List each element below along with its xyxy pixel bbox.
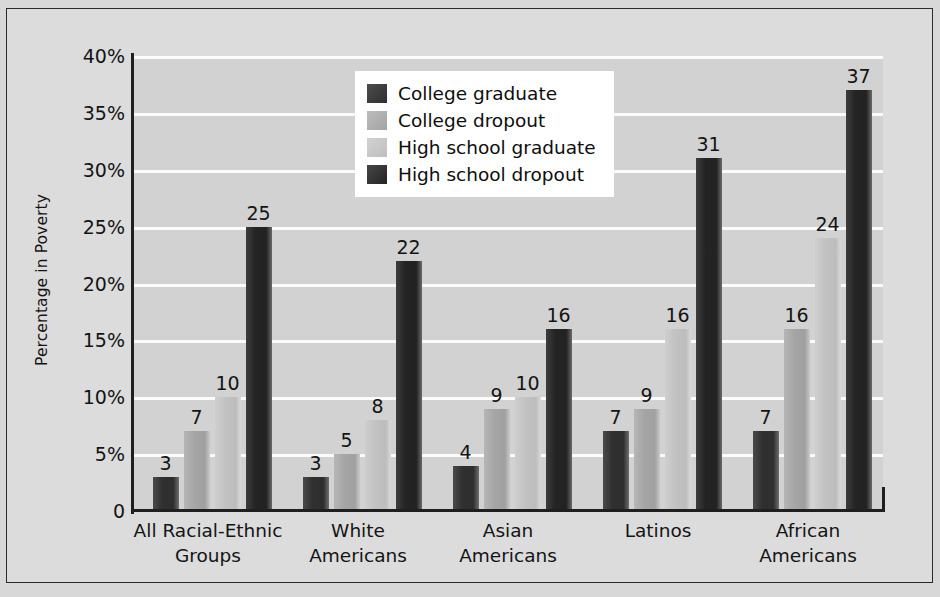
bar[interactable] <box>246 227 272 511</box>
bar-value-label: 31 <box>696 133 720 155</box>
bar-slot: 25 <box>246 56 272 511</box>
y-axis-tick-40: 40% <box>47 45 125 67</box>
x-axis-label-line: Americans <box>733 543 883 568</box>
bar-value-label: 22 <box>396 236 420 258</box>
bar[interactable] <box>815 238 841 511</box>
bar-value-label: 7 <box>609 406 621 428</box>
legend-item-label: College graduate <box>398 83 557 104</box>
bar-slot: 9 <box>634 56 660 511</box>
legend-swatch-icon <box>367 84 387 103</box>
x-axis-label: All Racial-EthnicGroups <box>133 518 283 568</box>
bar[interactable] <box>396 261 422 511</box>
y-axis-line <box>131 53 134 514</box>
y-axis-tick-5: 5% <box>47 443 125 465</box>
bar-value-label: 9 <box>490 384 502 406</box>
bar-value-label: 7 <box>759 406 771 428</box>
bar-value-label: 16 <box>546 304 570 326</box>
bar-value-label: 9 <box>640 384 652 406</box>
y-axis-tick-10: 10% <box>47 386 125 408</box>
x-axis-label: WhiteAmericans <box>283 518 433 568</box>
x-axis-label: AsianAmericans <box>433 518 583 568</box>
x-axis-label-line: Americans <box>433 543 583 568</box>
bar-slot: 31 <box>696 56 722 511</box>
bar-slot: 3 <box>153 56 179 511</box>
y-axis-tick-labels: 40%35%30%25%20%15%10%5%0 <box>47 43 125 523</box>
bar-value-label: 24 <box>815 213 839 235</box>
bar-value-label: 8 <box>371 395 383 417</box>
bar[interactable] <box>603 431 629 511</box>
bar-value-label: 3 <box>309 452 321 474</box>
bar[interactable] <box>634 409 660 511</box>
bar[interactable] <box>184 431 210 511</box>
x-axis-label: AfricanAmericans <box>733 518 883 568</box>
x-axis-label-line: Americans <box>283 543 433 568</box>
bar-slot: 3 <box>303 56 329 511</box>
legend-item-label: College dropout <box>398 110 545 131</box>
bar[interactable] <box>784 329 810 511</box>
x-axis-line <box>131 509 885 512</box>
bar-value-label: 10 <box>215 372 239 394</box>
bar[interactable] <box>546 329 572 511</box>
bar[interactable] <box>303 477 329 511</box>
chart-legend: College graduateCollege dropoutHigh scho… <box>355 71 614 197</box>
bar[interactable] <box>846 90 872 511</box>
chart-figure: Percentage in Poverty 40%35%30%25%20%15%… <box>0 0 940 597</box>
chart-frame: Percentage in Poverty 40%35%30%25%20%15%… <box>6 8 933 583</box>
bar-value-label: 4 <box>459 441 471 463</box>
legend-swatch-icon <box>367 111 387 130</box>
legend-item[interactable]: High school graduate <box>367 134 596 161</box>
legend-item[interactable]: College graduate <box>367 80 596 107</box>
legend-swatch-icon <box>367 138 387 157</box>
bar-slot: 37 <box>846 56 872 511</box>
x-axis-category-labels: All Racial-EthnicGroupsWhiteAmericansAsi… <box>133 518 883 582</box>
bar[interactable] <box>153 477 179 511</box>
bar-value-label: 16 <box>784 304 808 326</box>
x-axis-label-line: African <box>733 518 883 543</box>
bar-slot: 7 <box>184 56 210 511</box>
x-axis-label-line: Asian <box>433 518 583 543</box>
bar[interactable] <box>696 158 722 511</box>
bar[interactable] <box>515 397 541 511</box>
bar[interactable] <box>753 431 779 511</box>
x-axis-label-line: Latinos <box>583 518 733 543</box>
bar-value-label: 5 <box>340 429 352 451</box>
bar-slot: 16 <box>665 56 691 511</box>
y-axis-tick-20: 20% <box>47 273 125 295</box>
bar-value-label: 3 <box>159 452 171 474</box>
bar-slot: 10 <box>215 56 241 511</box>
y-axis-tick-25: 25% <box>47 216 125 238</box>
bar-group: 7162437 <box>733 56 883 511</box>
bar-slot: 24 <box>815 56 841 511</box>
bar-value-label: 25 <box>246 202 270 224</box>
bar[interactable] <box>334 454 360 511</box>
y-axis-tick-0: 0 <box>47 500 125 522</box>
bar-value-label: 7 <box>190 406 202 428</box>
x-axis-label-line: All Racial-Ethnic <box>133 518 283 543</box>
bar[interactable] <box>453 466 479 512</box>
bar[interactable] <box>484 409 510 511</box>
x-axis-right-tick <box>882 487 885 512</box>
legend-swatch-icon <box>367 165 387 184</box>
bar[interactable] <box>365 420 391 511</box>
legend-item-label: High school dropout <box>398 164 584 185</box>
bar-value-label: 10 <box>515 372 539 394</box>
bar-slot: 7 <box>753 56 779 511</box>
bar[interactable] <box>665 329 691 511</box>
x-axis-label-line: Groups <box>133 543 283 568</box>
bar[interactable] <box>215 397 241 511</box>
x-axis-label: Latinos <box>583 518 733 543</box>
bar-value-label: 37 <box>846 65 870 87</box>
y-axis-tick-35: 35% <box>47 102 125 124</box>
legend-item-label: High school graduate <box>398 137 596 158</box>
bar-value-label: 16 <box>665 304 689 326</box>
bar-slot: 16 <box>784 56 810 511</box>
y-axis-tick-30: 30% <box>47 159 125 181</box>
x-axis-label-line: White <box>283 518 433 543</box>
y-axis-tick-15: 15% <box>47 329 125 351</box>
legend-item[interactable]: High school dropout <box>367 161 596 188</box>
legend-item[interactable]: College dropout <box>367 107 596 134</box>
bar-group: 371025 <box>133 56 283 511</box>
